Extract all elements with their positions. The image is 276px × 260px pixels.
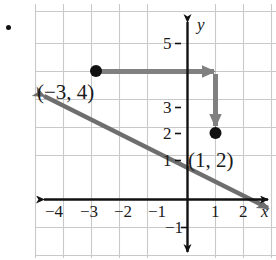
y-tick-5: 5 [163,35,172,52]
y-tick-1: 1 [163,152,172,169]
y-tick-neg1: −1 [165,219,183,236]
point-marker [90,65,102,77]
x-tick-1: 1 [211,203,220,220]
x-tick-neg3: −3 [80,203,98,220]
graphed-line [44,96,268,208]
x-tick-neg1: −1 [148,203,166,220]
point-marker [210,127,222,139]
y-tick-3: 3 [163,99,172,116]
x-tick-2: 2 [239,203,248,220]
point-label-1-2: (1, 2) [188,150,234,171]
x-tick-neg4: −4 [45,203,63,220]
point-label-neg3-4: (−3, 4) [37,82,94,103]
x-tick-neg2: −2 [114,203,132,220]
y-axis-label: y [197,16,205,33]
coordinate-plane-figure [0,0,276,260]
x-axis-label: x [261,203,269,220]
y-tick-2: 2 [163,125,172,142]
